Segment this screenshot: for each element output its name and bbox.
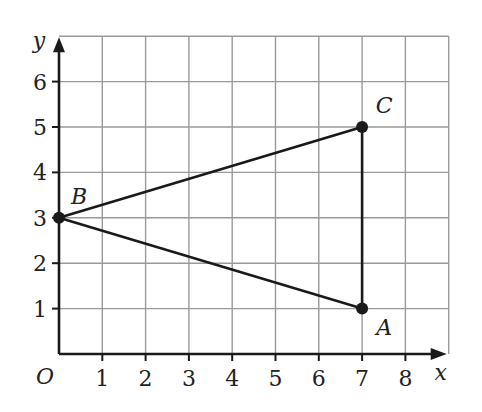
y-tick-label: 2 xyxy=(33,251,47,276)
y-tick-label: 4 xyxy=(33,160,47,185)
origin-label: O xyxy=(36,364,54,389)
x-tick-label: 4 xyxy=(225,366,239,391)
grid-lines xyxy=(59,36,449,354)
x-tick-label: 7 xyxy=(355,366,369,391)
point-label-c: C xyxy=(376,93,393,118)
x-tick-label: 1 xyxy=(95,366,109,391)
x-tick-label: 8 xyxy=(398,366,412,391)
point-label-a: A xyxy=(374,315,392,340)
axes xyxy=(53,37,447,360)
coordinate-grid-figure: 12345678123456Oxy ABC xyxy=(0,0,482,412)
point-label-b: B xyxy=(70,184,87,209)
x-tick-label: 5 xyxy=(269,366,283,391)
y-tick-label: 5 xyxy=(33,115,47,140)
point-c-dot xyxy=(356,121,368,133)
point-a-dot xyxy=(356,303,368,315)
y-axis-arrow-icon xyxy=(53,37,65,52)
y-tick-label: 1 xyxy=(33,297,47,322)
x-tick-label: 3 xyxy=(182,366,196,391)
x-tick-label: 6 xyxy=(312,366,326,391)
y-tick-label: 6 xyxy=(33,70,47,95)
point-b-dot xyxy=(53,212,65,224)
y-tick-label: 3 xyxy=(33,206,47,231)
x-tick-label: 2 xyxy=(139,366,153,391)
x-axis-arrow-icon xyxy=(431,348,447,360)
x-axis-label: x xyxy=(434,360,447,385)
y-axis-label: y xyxy=(32,28,46,53)
